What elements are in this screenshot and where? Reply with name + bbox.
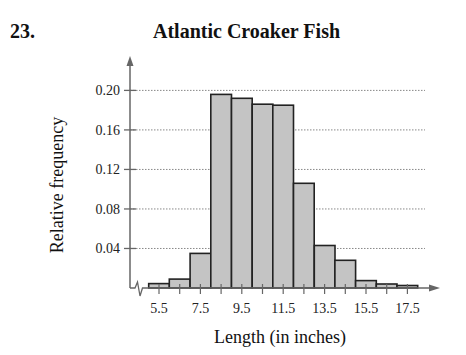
bar-11.5 (273, 105, 294, 288)
x-tick-label: 17.5 (395, 301, 420, 316)
y-tick-label: 0.20 (96, 83, 121, 98)
bar-12.5 (294, 183, 315, 288)
bar-9.5 (232, 98, 253, 288)
bar-10.5 (252, 104, 273, 288)
bar-14.5 (335, 260, 356, 288)
histogram-chart: 0.040.080.120.160.20 5.57.59.511.513.515… (0, 0, 466, 355)
x-axis-arrow-icon (429, 285, 440, 292)
x-tick-label: 13.5 (312, 301, 337, 316)
bars (149, 94, 418, 288)
bar-8.5 (211, 94, 232, 288)
x-tick-label: 5.5 (150, 301, 168, 316)
y-tick-label: 0.08 (96, 202, 121, 217)
bar-7.5 (190, 253, 211, 288)
x-tick-label: 7.5 (192, 301, 210, 316)
x-tick-label: 15.5 (354, 301, 379, 316)
bar-13.5 (314, 246, 335, 289)
x-tick-label: 9.5 (233, 301, 251, 316)
y-tick-label: 0.04 (96, 241, 121, 256)
y-tick-label: 0.16 (96, 123, 121, 138)
y-tick-label: 0.12 (96, 162, 121, 177)
y-axis-arrow-icon (127, 56, 134, 66)
x-tick-label: 11.5 (271, 301, 295, 316)
axis-break-icon (130, 282, 148, 296)
